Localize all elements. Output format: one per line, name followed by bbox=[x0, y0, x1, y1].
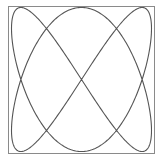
lissajous-figure bbox=[0, 0, 161, 162]
lissajous-curve bbox=[12, 8, 152, 152]
